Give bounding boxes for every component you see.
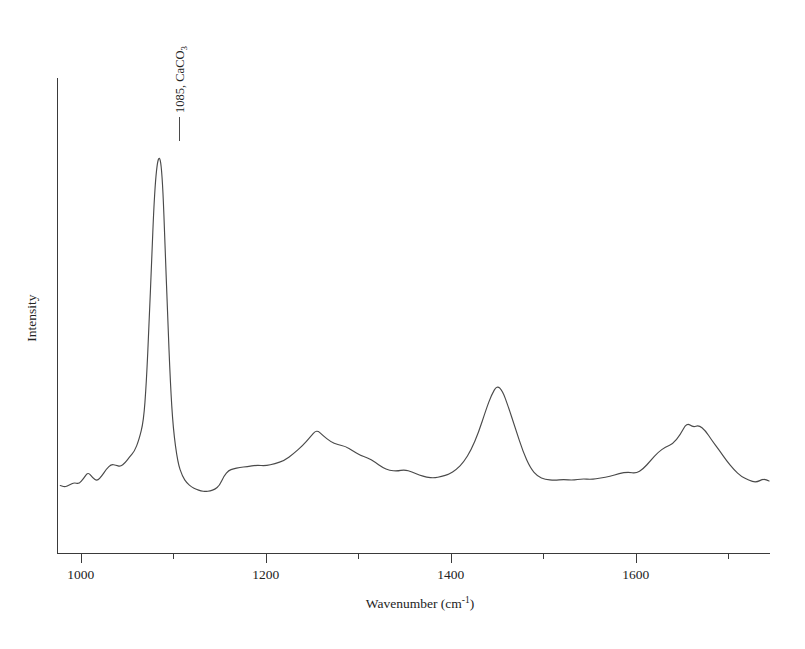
x-axis-tick-labels: 1000120014001600 — [67, 567, 649, 582]
axes-group — [57, 78, 770, 554]
y-axis-title: Intensity — [24, 294, 39, 341]
spectrum-plot: 1000120014001600 1085, CaCO3 Intensity W… — [0, 0, 805, 649]
x-axis-tick-label: 1000 — [67, 567, 94, 582]
spectrum-figure: 1000120014001600 1085, CaCO3 Intensity W… — [0, 0, 805, 649]
x-axis-tick-label: 1400 — [437, 567, 464, 582]
peak-annotation-label: 1085, CaCO3 — [173, 46, 189, 114]
x-axis-title: Wavenumber (cm-1) — [366, 595, 474, 611]
x-axis-tick-label: 1600 — [622, 567, 649, 582]
x-axis-tick-label: 1200 — [252, 567, 279, 582]
spectrum-trace — [60, 158, 769, 491]
